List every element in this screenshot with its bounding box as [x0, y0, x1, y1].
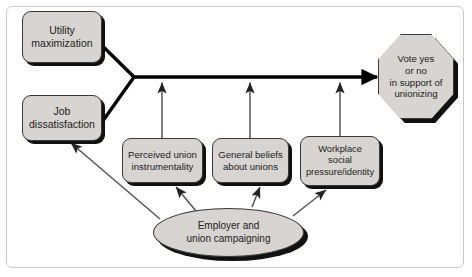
node-label-line: Vote yes [390, 53, 443, 65]
node-label-line: instrumentality [128, 161, 197, 173]
diagram-canvas: Utility maximization Job dissatisfaction… [0, 0, 472, 277]
edge-campaigning-to-instrumentality [176, 187, 196, 211]
node-label-line: dissatisfaction [29, 118, 95, 131]
edge-campaigning-to-beliefs [252, 187, 260, 207]
node-label-line: social [306, 155, 374, 166]
node-workplace-social-pressure-identity[interactable]: Workplace social pressure/identity [300, 136, 380, 186]
node-perceived-union-instrumentality[interactable]: Perceived union instrumentality [122, 138, 203, 183]
edge-job-to-junction [104, 77, 135, 120]
node-label-line: pressure/identity [306, 167, 374, 178]
node-label-line: Workplace [306, 144, 374, 155]
node-job-dissatisfaction[interactable]: Job dissatisfaction [22, 95, 102, 141]
node-general-beliefs-about-unions[interactable]: General beliefs about unions [212, 138, 289, 183]
node-label-line: General beliefs [218, 149, 283, 161]
edge-utility-to-junction [104, 47, 135, 77]
edge-campaigning-to-workplace [293, 190, 326, 216]
node-label-line: Job [29, 105, 95, 118]
node-label-line: about unions [218, 161, 283, 173]
node-employer-and-union-campaigning[interactable]: Employer and union campaigning [153, 208, 304, 257]
node-label-line: Utility [31, 24, 92, 37]
node-label-line: or no [390, 65, 443, 77]
node-label-line: maximization [31, 37, 92, 50]
node-label-line: Perceived union [128, 149, 197, 161]
node-label-line: Employer and [187, 220, 271, 232]
node-label-line: unionizing [390, 88, 443, 100]
node-label-line: union campaigning [187, 233, 271, 245]
node-label-line: in support of [390, 77, 443, 89]
node-utility-maximization[interactable]: Utility maximization [22, 11, 102, 63]
